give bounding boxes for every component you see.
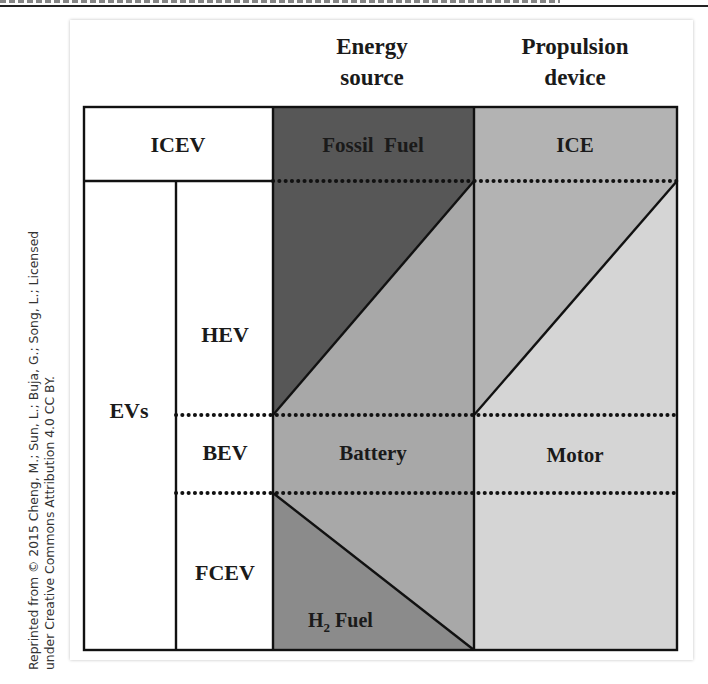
energy-source-header-line-2: source xyxy=(340,65,403,90)
fossil-fuel-label: Fossil Fuel xyxy=(322,133,424,157)
fcev-label: FCEV xyxy=(195,560,255,585)
ice-label: ICE xyxy=(556,133,593,157)
motor-label: Motor xyxy=(546,443,603,467)
evs-label: EVs xyxy=(109,398,149,423)
energy-source-header-line-1: Energy xyxy=(336,34,408,59)
bev-label: BEV xyxy=(202,440,247,465)
ev-classification-diagram: Energy source Propulsion device ICEV EVs… xyxy=(0,0,708,684)
h2-fuel-rest: Fuel xyxy=(330,609,373,631)
hev-label: HEV xyxy=(201,322,249,347)
propulsion-device-header-line-1: Propulsion xyxy=(522,34,629,59)
h2-fuel-h: H xyxy=(308,609,324,631)
propulsion-device-header-line-2: device xyxy=(544,65,605,90)
battery-label: Battery xyxy=(339,441,407,465)
icev-label: ICEV xyxy=(150,132,205,157)
fcev-propulsion-cell xyxy=(474,493,677,650)
